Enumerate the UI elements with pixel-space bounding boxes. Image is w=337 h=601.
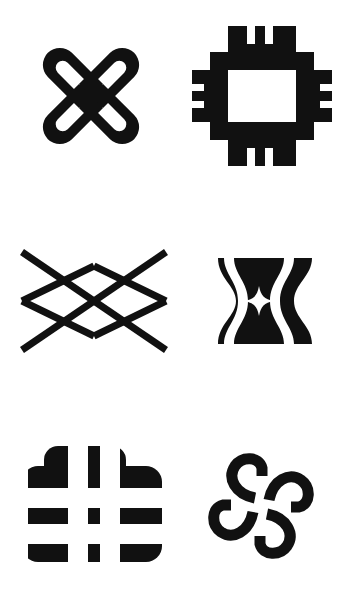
looped-x-cross-glyph <box>36 41 146 151</box>
square-frame-combed-tabs-glyph <box>192 26 332 166</box>
center-square-void <box>255 500 267 512</box>
symbol-double-x-lattice <box>18 246 170 356</box>
symbol-four-hooked-spiral-cross <box>198 444 324 568</box>
symbol-plate <box>0 0 337 601</box>
symbol-hourglass-block-star <box>198 256 320 346</box>
symbol-square-frame-with-combed-tabs <box>192 22 332 170</box>
hourglass-block-star-glyph <box>200 258 318 344</box>
symbol-rounded-block-hash <box>18 444 166 564</box>
symbol-looped-x-cross <box>18 22 164 170</box>
rounded-block-hash-glyph <box>18 444 166 564</box>
double-x-lattice-glyph <box>22 252 166 350</box>
